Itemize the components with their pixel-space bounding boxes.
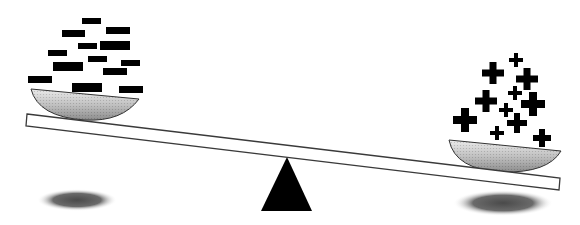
minus-sign — [53, 62, 83, 71]
balance-scale-illustration — [0, 0, 580, 225]
minus-sign — [72, 83, 102, 92]
minus-sign — [121, 60, 140, 66]
plus-signs — [453, 53, 551, 147]
scale-svg — [0, 0, 580, 225]
minus-sign — [62, 30, 85, 37]
minus-sign — [82, 18, 101, 24]
minus-sign — [119, 86, 143, 93]
minus-sign — [78, 43, 97, 49]
minus-sign — [48, 50, 67, 56]
left-pan — [31, 89, 139, 120]
minus-sign — [100, 41, 130, 50]
plus-sign — [516, 68, 538, 90]
plus-sign — [509, 53, 523, 67]
plus-sign — [507, 113, 527, 133]
minus-sign — [103, 68, 127, 75]
plus-sign — [533, 129, 551, 147]
right-pan-shadow — [453, 190, 553, 216]
plus-sign — [521, 92, 545, 116]
left-pan-shadow — [37, 189, 117, 211]
plus-sign — [482, 62, 504, 84]
plus-sign — [499, 103, 513, 117]
plus-sign — [475, 90, 497, 112]
fulcrum-triangle — [261, 157, 312, 211]
minus-sign — [28, 76, 52, 83]
minus-signs — [28, 18, 143, 93]
plus-sign — [508, 86, 522, 100]
minus-sign — [106, 27, 130, 34]
plus-sign — [490, 126, 504, 140]
plus-sign — [453, 108, 477, 132]
minus-sign — [88, 56, 107, 62]
